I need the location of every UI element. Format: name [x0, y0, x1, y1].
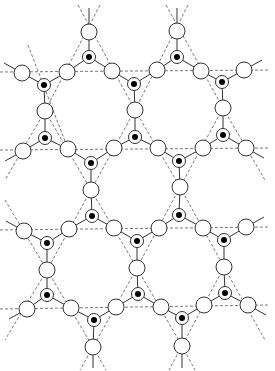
open-node-circle: [195, 140, 211, 156]
open-node-circle: [85, 339, 101, 355]
solid-bonds: [4, 8, 266, 368]
open-node-circle: [14, 65, 30, 81]
dashed-guide-lines: [0, 5, 270, 370]
filled-node: [88, 314, 101, 327]
open-node-circle: [106, 140, 122, 156]
filled-node-dot: [219, 79, 225, 85]
filled-node: [218, 234, 231, 247]
open-node-circle: [172, 179, 188, 195]
open-node-circle: [238, 219, 254, 235]
open-node-circle: [150, 140, 166, 156]
dashed-line: [0, 227, 270, 230]
open-node-circle: [16, 223, 32, 239]
filled-node: [41, 289, 54, 302]
open-node-circle: [83, 182, 99, 198]
filled-node: [131, 235, 144, 248]
open-node-circle: [61, 221, 77, 237]
filled-node-dot: [88, 160, 94, 166]
filled-node: [217, 129, 230, 142]
open-node-circle: [151, 220, 167, 236]
open-node-circle: [240, 297, 256, 313]
filled-node-dot: [86, 54, 92, 60]
filled-node: [38, 79, 51, 92]
open-node-circle: [81, 24, 97, 40]
lattice-svg: [0, 0, 275, 371]
open-node-circle: [174, 338, 190, 354]
filled-node-dot: [89, 213, 95, 219]
open-node-circle: [19, 301, 35, 317]
filled-node: [219, 287, 232, 300]
open-node-circle: [238, 140, 254, 156]
filled-node: [132, 288, 145, 301]
open-node-circle: [153, 299, 169, 315]
open-node-circle: [236, 62, 252, 78]
open-node-circle: [193, 63, 209, 79]
filled-node: [176, 312, 189, 325]
open-node-circle: [60, 141, 76, 157]
filled-node: [216, 76, 229, 89]
filled-node: [173, 155, 186, 168]
filled-node-dot: [131, 81, 137, 87]
filled-node-dot: [42, 135, 48, 141]
filled-node-dot: [91, 317, 97, 323]
open-node-circle: [216, 259, 232, 275]
filled-node: [86, 210, 99, 223]
filled-node-dot: [222, 290, 228, 296]
filled-node: [41, 237, 54, 250]
filled-node-dot: [221, 237, 227, 243]
lattice-diagram: [0, 0, 275, 371]
open-node-circle: [127, 102, 143, 118]
dashed-line: [0, 70, 270, 72]
dashed-line: [0, 305, 270, 309]
filled-node-dot: [134, 238, 140, 244]
open-node-circle: [39, 262, 55, 278]
open-node-circle: [37, 103, 53, 119]
open-node-circle: [129, 260, 145, 276]
filled-node-dot: [44, 292, 50, 298]
filled-node-dot: [41, 82, 47, 88]
filled-node: [173, 209, 186, 222]
dashed-line: [0, 148, 270, 150]
filled-node: [83, 51, 96, 64]
open-node-circle: [169, 23, 185, 39]
open-node-circle: [63, 300, 79, 316]
open-node-circle: [106, 220, 122, 236]
filled-node-dot: [132, 134, 138, 140]
filled-node-dot: [174, 54, 180, 60]
filled-node: [39, 132, 52, 145]
open-node-circle: [149, 62, 165, 78]
filled-node-dot: [176, 212, 182, 218]
open-node-circle: [59, 64, 75, 80]
open-node-circle: [196, 297, 212, 313]
filled-node: [129, 131, 142, 144]
filled-node-dot: [176, 158, 182, 164]
filled-node: [171, 51, 184, 64]
open-nodes: [14, 23, 256, 355]
open-node-circle: [15, 143, 31, 159]
filled-node: [85, 157, 98, 170]
open-node-circle: [108, 299, 124, 315]
filled-node-dot: [179, 315, 185, 321]
filled-node-dot: [44, 240, 50, 246]
filled-node: [128, 78, 141, 91]
open-node-circle: [215, 100, 231, 116]
filled-node-dot: [135, 291, 141, 297]
open-node-circle: [104, 63, 120, 79]
filled-node-dot: [220, 132, 226, 138]
open-node-circle: [195, 220, 211, 236]
